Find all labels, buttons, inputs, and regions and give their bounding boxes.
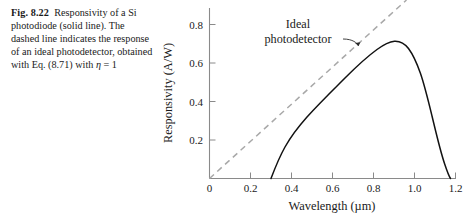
x-axis-ticks	[210, 173, 456, 179]
caption-line-6-prefix: Eq. (8.71) with	[32, 59, 96, 70]
y-tick-labels: 0.2 0.4 0.6 0.8	[189, 19, 203, 147]
caption-line-6-suffix: = 1	[101, 59, 117, 70]
x-tick-label-5: 1.0	[408, 182, 422, 194]
caption-line-1: Responsivity of a	[54, 7, 125, 18]
y-tick-label-1: 0.4	[189, 96, 203, 108]
responsivity-plot: 0 0.2 0.4 0.6 0.8 1.0 1.2 0.2 0.4 0.6 0.…	[155, 0, 470, 218]
figure-number: Fig. 8.22	[11, 7, 54, 18]
x-tick-label-0: 0	[207, 182, 213, 194]
annotation-line-1: Ideal	[286, 17, 311, 31]
series-si-photodiode	[271, 41, 451, 178]
plot-axes	[210, 8, 457, 179]
x-tick-label-3: 0.6	[326, 182, 340, 194]
annotation-line-2: photodetector	[264, 32, 331, 46]
y-axis-ticks	[210, 25, 216, 141]
figure-caption: Fig. 8.22Responsivity of a Si photodiode…	[11, 6, 153, 71]
x-tick-labels: 0 0.2 0.4 0.6 0.8 1.0 1.2	[207, 182, 463, 194]
x-tick-label-4: 0.8	[367, 182, 381, 194]
y-tick-label-0: 0.2	[189, 134, 203, 146]
figure-8-22: Fig. 8.22Responsivity of a Si photodiode…	[0, 0, 470, 218]
y-axis-title: Responsivity (A/W)	[161, 43, 175, 143]
x-tick-label-6: 1.2	[449, 182, 463, 194]
y-tick-label-2: 0.6	[189, 57, 203, 69]
annotation-ideal-photodetector: Ideal photodetector	[264, 17, 360, 46]
y-tick-label-3: 0.8	[189, 19, 203, 31]
annotation-leader-line	[343, 39, 359, 46]
x-axis-title: Wavelength (µm)	[289, 199, 376, 213]
x-tick-label-2: 0.4	[285, 182, 299, 194]
x-tick-label-1: 0.2	[244, 182, 258, 194]
